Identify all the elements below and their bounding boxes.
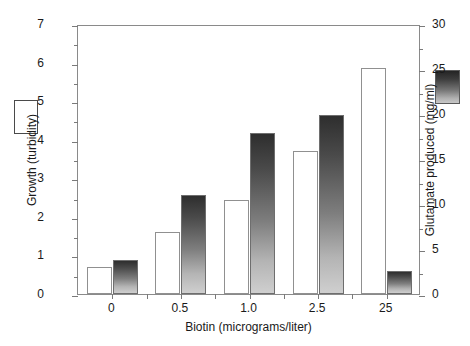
bar-glutamate — [319, 115, 344, 294]
x-tick-label: 25 — [356, 302, 416, 314]
x-tick-label: 1.0 — [219, 302, 279, 314]
y-tick-left — [72, 296, 78, 297]
y-tick-right-minor — [419, 274, 423, 275]
x-tick-label: 0.5 — [150, 302, 210, 314]
plot-area — [77, 25, 420, 295]
x-tick-minor — [284, 294, 285, 299]
y-tick-right — [419, 26, 425, 27]
y-tick-right — [419, 296, 425, 297]
bar-glutamate — [250, 133, 275, 294]
y-tick-left — [72, 257, 78, 258]
x-tick — [387, 294, 388, 299]
y-tick-label-left: 7 — [18, 18, 44, 30]
y-axis-left-title: Growth (turbidity) — [25, 114, 39, 206]
y-tick-label-right: 0 — [432, 288, 458, 300]
x-tick — [250, 294, 251, 299]
bar-growth — [224, 200, 249, 295]
y-tick-left — [72, 180, 78, 181]
y-tick-right-minor — [419, 184, 423, 185]
y-tick-label-right: 15 — [432, 153, 458, 165]
y-tick-right — [419, 251, 425, 252]
y-tick-label-right: 20 — [432, 108, 458, 120]
bar-glutamate — [181, 195, 206, 294]
x-tick — [181, 294, 182, 299]
y-tick-left-minor — [74, 161, 78, 162]
y-tick-label-left: 1 — [18, 249, 44, 261]
x-tick-minor — [147, 294, 148, 299]
y-tick-right-minor — [419, 229, 423, 230]
x-tick-minor — [215, 294, 216, 299]
y-tick-left-minor — [74, 277, 78, 278]
y-tick-label-left: 2 — [18, 211, 44, 223]
y-tick-label-right: 30 — [432, 18, 458, 30]
bar-growth — [361, 68, 386, 294]
y-tick-label-left: 4 — [18, 134, 44, 146]
y-tick-left — [72, 26, 78, 27]
y-tick-left — [72, 219, 78, 220]
y-tick-label-right: 25 — [432, 63, 458, 75]
chart-figure: Growth (turbidity) Glutamate produced (m… — [0, 0, 470, 346]
y-tick-left-minor — [74, 45, 78, 46]
bar-glutamate — [387, 271, 412, 294]
y-tick-label-right: 5 — [432, 243, 458, 255]
y-tick-right — [419, 206, 425, 207]
x-tick-label: 0 — [81, 302, 141, 314]
x-tick — [318, 294, 319, 299]
y-tick-left-minor — [74, 200, 78, 201]
bar-growth — [87, 267, 112, 294]
x-tick-label: 2.5 — [287, 302, 347, 314]
y-tick-right-minor — [419, 49, 423, 50]
y-tick-label-right: 10 — [432, 198, 458, 210]
y-tick-right-minor — [419, 139, 423, 140]
y-tick-right — [419, 161, 425, 162]
bar-growth — [155, 232, 180, 294]
y-tick-left-minor — [74, 122, 78, 123]
y-tick-label-left: 5 — [18, 95, 44, 107]
x-axis-title: Biotin (micrograms/liter) — [77, 320, 420, 334]
y-tick-left-minor — [74, 238, 78, 239]
y-tick-label-left: 3 — [18, 172, 44, 184]
x-tick — [112, 294, 113, 299]
y-tick-right-minor — [419, 94, 423, 95]
y-tick-right — [419, 116, 425, 117]
y-tick-left — [72, 65, 78, 66]
y-tick-left — [72, 142, 78, 143]
y-tick-label-left: 0 — [18, 288, 44, 300]
y-tick-right — [419, 71, 425, 72]
y-tick-left — [72, 103, 78, 104]
x-tick-minor — [352, 294, 353, 299]
y-tick-label-left: 6 — [18, 57, 44, 69]
bar-growth — [293, 151, 318, 294]
bar-glutamate — [113, 260, 138, 294]
y-tick-left-minor — [74, 84, 78, 85]
